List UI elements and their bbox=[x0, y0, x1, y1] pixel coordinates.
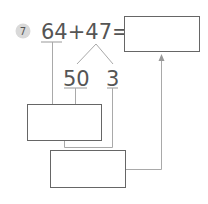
split-right-number: 3 bbox=[106, 67, 119, 91]
problem-number: 7 bbox=[20, 26, 26, 37]
arrow-up-icon bbox=[159, 54, 165, 61]
split-left-number: 50 bbox=[63, 67, 90, 91]
operand-b: 47 bbox=[85, 20, 112, 44]
problem-number-badge: 7 bbox=[16, 24, 31, 39]
connector-to-answer bbox=[126, 60, 162, 170]
addition-decomposition-diagram: 7 64+47= 50 3 bbox=[0, 0, 208, 204]
answer-box[interactable] bbox=[125, 17, 200, 52]
plus-sign: + bbox=[68, 20, 86, 44]
operand-a: 64 bbox=[41, 20, 68, 44]
expression: 64+47= bbox=[41, 20, 130, 44]
branch-left bbox=[77, 44, 96, 64]
step1-box[interactable] bbox=[28, 105, 102, 141]
branch-right bbox=[96, 44, 113, 64]
step2-box[interactable] bbox=[51, 151, 126, 188]
